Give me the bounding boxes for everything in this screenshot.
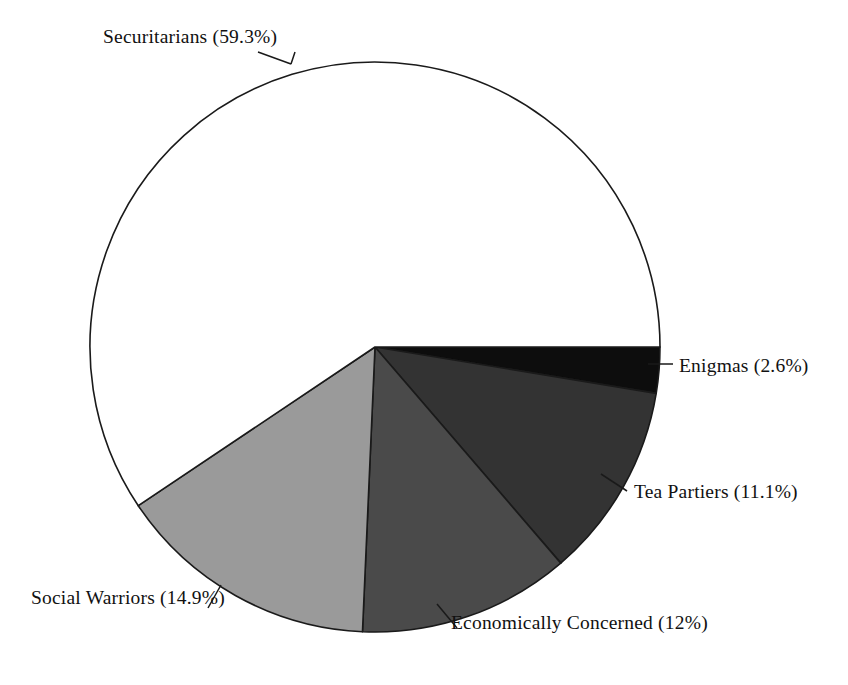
pie-label-social-warriors: Social Warriors (14.9%)	[31, 587, 225, 609]
pie-label-securitarians: Securitarians (59.3%)	[103, 26, 277, 48]
pie-chart-figure: Securitarians (59.3%) Enigmas (2.6%) Tea…	[0, 0, 848, 685]
pie-label-tea-partiers: Tea Partiers (11.1%)	[634, 481, 798, 503]
pie-label-enigmas: Enigmas (2.6%)	[679, 355, 809, 377]
pie-slices-group	[90, 62, 660, 632]
leader-line-securitarians	[258, 52, 295, 64]
pie-chart-canvas	[0, 0, 848, 685]
pie-label-economically-concerned: Economically Concerned (12%)	[451, 612, 708, 634]
